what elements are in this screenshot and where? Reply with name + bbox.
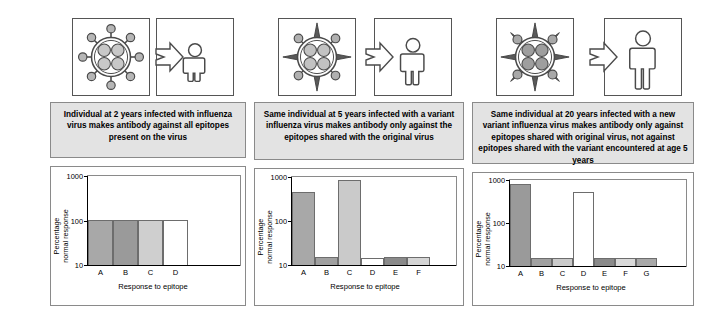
arrow-right-icon [152, 40, 186, 74]
x-tick-B: B [531, 269, 552, 278]
arrow-right-icon [586, 40, 620, 74]
x-tick-C: C [338, 268, 361, 277]
x-tick-C: C [138, 268, 163, 277]
x-axis-label: Response to epitope [65, 282, 241, 291]
panel-3-icon-row [470, 18, 696, 100]
bar-E [384, 257, 407, 265]
bar-A [292, 192, 315, 265]
bar-group-panel-2 [292, 176, 456, 265]
x-axis-label: Response to epitope [273, 282, 457, 291]
virus-icon-box [72, 18, 150, 96]
bar-E [594, 258, 615, 266]
x-tick-F: F [407, 268, 430, 277]
x-tick-F: F [615, 269, 636, 278]
y-tick-1000: 1000 [481, 176, 505, 185]
x-tick-G: G [636, 269, 657, 278]
panel-2-caption: Same individual at 5 years infected with… [254, 102, 464, 160]
panel-infection-age-5: Same individual at 5 years infected with… [252, 10, 466, 312]
bar-A [88, 220, 113, 265]
bar-C [552, 258, 573, 266]
y-tick-1000: 1000 [263, 173, 287, 182]
bar-A [510, 184, 531, 266]
x-tick-B: B [113, 268, 138, 277]
x-tick-E: E [594, 269, 615, 278]
x-axis-label: Response to epitope [495, 283, 687, 292]
figure-sheet: Individual at 2 years infected with infl… [0, 0, 704, 321]
x-tick-A: A [510, 269, 531, 278]
arrow-right-icon [362, 40, 396, 74]
bar-B [113, 220, 138, 265]
influenza-virus-round-spikes-icon [73, 19, 149, 95]
panel-infection-age-20: Same individual at 20 years infected wit… [470, 10, 696, 312]
panel-2-chart: Percentage normal response 1000 100 10 [254, 168, 464, 306]
panel-3-chart: Percentage normal response 1000 100 10 [472, 172, 694, 306]
x-tick-A: A [292, 268, 315, 277]
bar-D [361, 258, 384, 265]
bar-F [615, 258, 636, 266]
influenza-variant-virus-star-spikes-icon [279, 19, 355, 95]
y-tick-100: 100 [481, 219, 505, 228]
y-tick-100: 100 [59, 217, 83, 226]
bar-C [138, 220, 163, 265]
panel-infection-age-2: Individual at 2 years infected with infl… [48, 10, 248, 312]
bar-D [163, 220, 188, 265]
y-tick-1000: 1000 [59, 172, 83, 181]
y-tick-10: 10 [481, 262, 505, 271]
bar-F [407, 257, 430, 265]
y-tick-10: 10 [59, 261, 83, 270]
bar-group-panel-1 [88, 175, 240, 265]
panel-1-caption: Individual at 2 years infected with infl… [50, 102, 246, 158]
panel-2-icon-row [252, 18, 466, 100]
x-tick-D: D [163, 268, 188, 277]
x-tick-D: D [361, 268, 384, 277]
panel-1-icon-row [48, 18, 248, 100]
bar-group-panel-3 [510, 179, 686, 266]
panel-3-caption: Same individual at 20 years infected wit… [472, 102, 694, 164]
x-tick-D: D [573, 269, 594, 278]
bar-C [338, 180, 361, 265]
y-tick-10: 10 [263, 261, 287, 270]
x-tick-C: C [552, 269, 573, 278]
panel-1-chart: Percentage normal response 1000 100 10 [50, 166, 246, 306]
virus-icon-box [278, 18, 356, 96]
influenza-new-variant-virus-star-spikes-icon [497, 19, 573, 95]
bar-D [573, 192, 594, 266]
x-tick-E: E [384, 268, 407, 277]
virus-icon-box [496, 18, 574, 96]
y-tick-100: 100 [263, 217, 287, 226]
bar-G [636, 258, 657, 266]
x-tick-B: B [315, 268, 338, 277]
x-tick-A: A [88, 268, 113, 277]
bar-B [315, 257, 338, 265]
bar-B [531, 258, 552, 266]
